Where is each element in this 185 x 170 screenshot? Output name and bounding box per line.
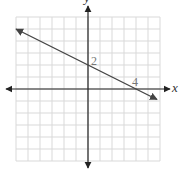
- coordinate-plane: [0, 0, 185, 170]
- y-intercept-label: 2: [91, 55, 97, 67]
- x-intercept-label: 4: [132, 76, 138, 88]
- x-axis-label: x: [172, 81, 178, 94]
- y-axis-label: y: [84, 0, 90, 4]
